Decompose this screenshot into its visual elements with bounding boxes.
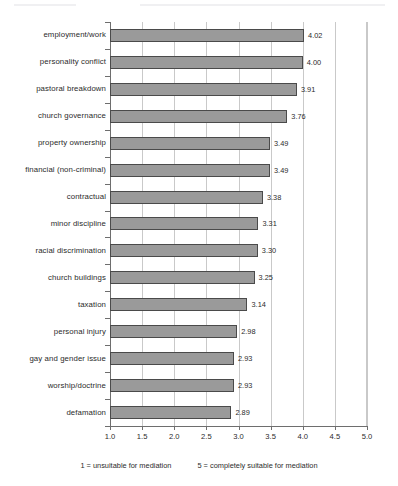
bar (110, 137, 270, 150)
bar (110, 244, 258, 257)
bar-group: 2.93 (110, 345, 252, 372)
horizontal-bar-chart: 1.01.52.02.53.03.54.04.55.0employment/wo… (0, 0, 398, 486)
x-tick-label-4.0: 4.0 (288, 432, 318, 441)
chart-row: racial discrimination3.30 (0, 237, 398, 264)
bar-group: 3.25 (110, 264, 273, 291)
bar-value-label: 3.30 (262, 246, 276, 255)
chart-row: taxation3.14 (0, 291, 398, 318)
legend-note-suitable: 5 = completely suitable for mediation (197, 461, 317, 470)
bar-value-label: 3.91 (301, 85, 315, 94)
bar (110, 298, 247, 311)
chart-row: worship/doctrine2.93 (0, 372, 398, 399)
x-tick-label-3.0: 3.0 (224, 432, 254, 441)
bar-group: 3.38 (110, 184, 281, 211)
category-label: defamation (0, 399, 106, 426)
chart-row: property ownership3.49 (0, 130, 398, 157)
chart-footer-legend: 1 = unsuitable for mediation 5 = complet… (0, 461, 398, 470)
chart-row: contractual3.38 (0, 184, 398, 211)
bar-group: 3.14 (110, 291, 266, 318)
bar (110, 164, 270, 177)
category-label: personal injury (0, 318, 106, 345)
x-tickmark-1.0 (110, 426, 111, 430)
x-tick-label-4.5: 4.5 (320, 432, 350, 441)
category-label: taxation (0, 291, 106, 318)
bar-value-label: 2.93 (238, 381, 252, 390)
y-tickmark (105, 426, 110, 427)
category-label: employment/work (0, 22, 106, 49)
category-label: contractual (0, 184, 106, 211)
x-tickmark-5.0 (367, 426, 368, 430)
x-tick-label-2.5: 2.5 (191, 432, 221, 441)
bar (110, 217, 258, 230)
chart-row: personality conflict4.00 (0, 49, 398, 76)
chart-row: minor discipline3.31 (0, 211, 398, 238)
bar (110, 110, 287, 123)
bar (110, 271, 255, 284)
x-tickmark-2.0 (174, 426, 175, 430)
x-tick-label-1.0: 1.0 (95, 432, 125, 441)
bar-group: 3.49 (110, 130, 288, 157)
chart-row: church buildings3.25 (0, 264, 398, 291)
x-tick-label-1.5: 1.5 (127, 432, 157, 441)
category-label: personality conflict (0, 49, 106, 76)
bar-group: 3.30 (110, 237, 276, 264)
category-label: worship/doctrine (0, 372, 106, 399)
category-label: minor discipline (0, 211, 106, 238)
x-tickmark-4.5 (335, 426, 336, 430)
category-label: property ownership (0, 130, 106, 157)
bar (110, 406, 231, 419)
x-tick-label-5.0: 5.0 (352, 432, 382, 441)
bar (110, 83, 297, 96)
x-tickmark-2.5 (206, 426, 207, 430)
bar (110, 325, 237, 338)
bar-group: 3.76 (110, 103, 306, 130)
bar-value-label: 3.25 (259, 273, 273, 282)
bar-group: 4.00 (110, 49, 321, 76)
chart-row: pastoral breakdown3.91 (0, 76, 398, 103)
chart-row: financial (non-criminal)3.49 (0, 157, 398, 184)
bar-group: 3.91 (110, 76, 315, 103)
chart-row: employment/work4.02 (0, 22, 398, 49)
category-label: racial discrimination (0, 237, 106, 264)
category-label: gay and gender issue (0, 345, 106, 372)
bar (110, 379, 234, 392)
x-tickmark-3.0 (239, 426, 240, 430)
bar-value-label: 3.38 (267, 193, 281, 202)
bar-group: 2.98 (110, 318, 256, 345)
bar-value-label: 4.02 (308, 31, 322, 40)
x-tickmark-3.5 (271, 426, 272, 430)
x-tick-label-2.0: 2.0 (159, 432, 189, 441)
x-tickmark-4.0 (303, 426, 304, 430)
x-tickmark-1.5 (142, 426, 143, 430)
bar-value-label: 2.93 (238, 354, 252, 363)
chart-row: personal injury2.98 (0, 318, 398, 345)
category-label: church buildings (0, 264, 106, 291)
bar (110, 191, 263, 204)
bar-value-label: 3.76 (291, 112, 305, 121)
bar-value-label: 2.89 (235, 408, 249, 417)
chart-row: gay and gender issue2.93 (0, 345, 398, 372)
category-label: financial (non-criminal) (0, 157, 106, 184)
bar (110, 352, 234, 365)
x-tick-label-3.5: 3.5 (256, 432, 286, 441)
bar-value-label: 3.14 (251, 300, 265, 309)
bar-group: 3.49 (110, 157, 288, 184)
bar-group: 2.93 (110, 372, 252, 399)
bar-value-label: 2.98 (241, 327, 255, 336)
chart-row: church governance3.76 (0, 103, 398, 130)
category-label: church governance (0, 103, 106, 130)
bar-value-label: 3.49 (274, 166, 288, 175)
bar-group: 2.89 (110, 399, 250, 426)
bar (110, 56, 303, 69)
bar (110, 29, 304, 42)
bar-group: 4.02 (110, 22, 322, 49)
bar-value-label: 4.00 (307, 58, 321, 67)
bar-value-label: 3.49 (274, 139, 288, 148)
category-label: pastoral breakdown (0, 76, 106, 103)
bar-value-label: 3.31 (262, 219, 276, 228)
bar-group: 3.31 (110, 211, 277, 238)
chart-row: defamation2.89 (0, 399, 398, 426)
legend-note-unsuitable: 1 = unsuitable for mediation (80, 461, 171, 470)
